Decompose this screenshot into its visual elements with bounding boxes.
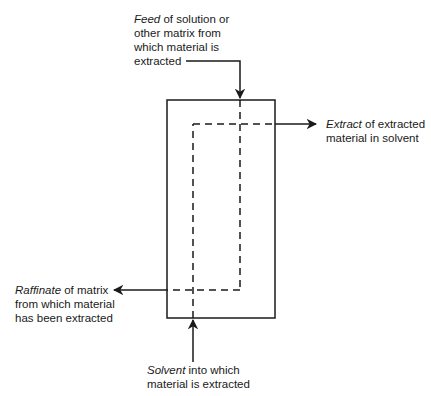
solvent-label: Solvent into which material is extracted [147, 363, 250, 391]
raffinate-term: Raffinate [15, 284, 61, 296]
solvent-term: Solvent [147, 364, 185, 376]
extract-term: Extract [326, 118, 362, 130]
extract-label: Extract of extracted material in solvent [326, 117, 425, 145]
extraction-vessel [167, 100, 275, 318]
feed-label: Feed of solution or other matrix from wh… [134, 12, 229, 68]
feed-term: Feed [134, 13, 160, 25]
raffinate-label: Raffinate of matrix from which material … [15, 283, 115, 325]
